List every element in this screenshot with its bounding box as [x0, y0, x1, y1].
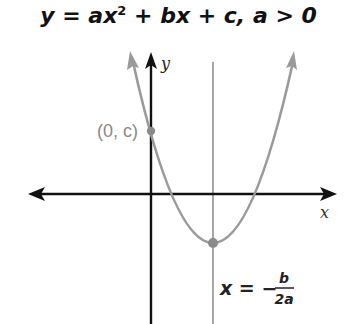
y-axis — [145, 52, 157, 324]
parabola-diagram: y x (0, c) x = − b 2a — [0, 0, 357, 324]
x-axis-label: x — [320, 203, 329, 222]
axis-of-symmetry-label: x = − b 2a — [219, 270, 294, 307]
y-axis-label: y — [160, 54, 171, 73]
symmetry-lhs: x = − — [219, 277, 277, 299]
symmetry-denominator: 2a — [274, 291, 293, 307]
symmetry-numerator: b — [279, 270, 289, 286]
x-axis — [28, 187, 337, 201]
vertex-point — [208, 238, 218, 248]
y-intercept-label: (0, c) — [97, 121, 138, 141]
y-intercept-point — [147, 127, 155, 135]
